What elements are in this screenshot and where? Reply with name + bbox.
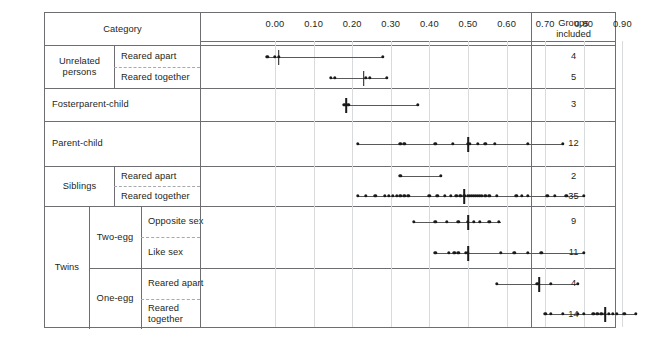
- range-line: [331, 78, 387, 79]
- row-label-parent-child: Parent-child: [45, 121, 207, 166]
- data-point: [520, 194, 523, 197]
- rule-siblings-split: [114, 186, 200, 187]
- gridline-0.40: [429, 41, 430, 327]
- data-point: [364, 194, 367, 197]
- data-point: [443, 194, 446, 197]
- groups-count: 5: [532, 67, 615, 88]
- groups-header-line1: Groups: [558, 18, 589, 29]
- data-point: [526, 251, 529, 254]
- row-label-siblings-reared-apart: Reared apart: [114, 166, 207, 186]
- data-point: [433, 220, 436, 223]
- data-point: [416, 103, 419, 106]
- data-point: [439, 174, 442, 177]
- data-point: [374, 194, 377, 197]
- range-line: [267, 57, 383, 58]
- data-point: [634, 312, 637, 315]
- data-point: [462, 194, 465, 197]
- range-line: [400, 176, 441, 177]
- data-point: [457, 220, 460, 223]
- data-point: [472, 220, 475, 223]
- data-point: [488, 220, 491, 223]
- gridline-0.30: [391, 41, 392, 327]
- tick-label-0.50: 0.50: [459, 19, 478, 29]
- groups-count: 4: [532, 46, 615, 67]
- groups-header-line2: included: [556, 29, 591, 40]
- groups-count: 11: [532, 237, 615, 268]
- gridline-0.50: [468, 41, 469, 327]
- data-point: [399, 174, 402, 177]
- row-label-twins-like-sex: Like sex: [141, 237, 207, 268]
- unrelated-persons-line1: Unrelated: [59, 56, 100, 67]
- data-point: [412, 220, 415, 223]
- tick-label-0.10: 0.10: [304, 19, 323, 29]
- groups-count: 2: [532, 166, 615, 186]
- row-label-twins-reared-apart: Reared apart: [141, 268, 207, 299]
- data-point: [433, 251, 436, 254]
- tick-label-0.60: 0.60: [497, 19, 516, 29]
- groups-count: 9: [532, 206, 615, 237]
- row-label-twins-reared-together: Reared together: [141, 299, 207, 329]
- groups-count: 4: [532, 268, 615, 299]
- data-point: [476, 142, 479, 145]
- row-label-siblings-reared-together: Reared together: [114, 186, 207, 206]
- data-point: [403, 142, 406, 145]
- range-line: [344, 105, 417, 106]
- data-point: [333, 76, 336, 79]
- data-point: [381, 55, 384, 58]
- data-point: [495, 282, 498, 285]
- groups-count: 12: [532, 121, 615, 166]
- data-point: [484, 142, 487, 145]
- groups-header: Groups included: [532, 13, 615, 45]
- data-point: [266, 55, 269, 58]
- row-label-unrelated-reared-apart: Reared apart: [114, 46, 207, 67]
- data-point: [435, 194, 438, 197]
- data-point: [623, 312, 626, 315]
- row-label-twins: Twins: [45, 206, 89, 329]
- data-point: [356, 194, 359, 197]
- gridline-0.20: [352, 41, 353, 327]
- groups-included-column: Groups included 45312235911414: [532, 13, 615, 327]
- data-point: [406, 194, 409, 197]
- data-point: [466, 220, 469, 223]
- data-point: [356, 142, 359, 145]
- tick-label-0.00: 0.00: [266, 19, 285, 29]
- unrelated-persons-line2: persons: [63, 67, 97, 78]
- data-point: [513, 251, 516, 254]
- data-point: [526, 194, 529, 197]
- data-point: [385, 76, 388, 79]
- row-label-siblings: Siblings: [45, 166, 114, 206]
- data-point: [468, 142, 471, 145]
- groups-count: 35: [532, 186, 615, 206]
- row-label-one-egg: One-egg: [89, 268, 141, 329]
- data-point: [433, 142, 436, 145]
- data-point: [449, 194, 452, 197]
- tick-label-0.30: 0.30: [381, 19, 400, 29]
- row-label-unrelated-reared-together: Reared together: [114, 67, 207, 88]
- data-point: [478, 220, 481, 223]
- data-point: [447, 251, 450, 254]
- data-point: [493, 142, 496, 145]
- row-label-unrelated-persons: Unrelated persons: [45, 46, 114, 88]
- data-point: [466, 251, 469, 254]
- figure-frame: Category Unrelated persons Reared apart …: [44, 12, 616, 328]
- data-point: [277, 55, 280, 58]
- data-point: [526, 142, 529, 145]
- data-point: [347, 103, 350, 106]
- gridline-0.90: [622, 41, 623, 327]
- rule-unrelated-split: [114, 67, 200, 68]
- rule-twoegg-split: [141, 237, 200, 238]
- data-point: [497, 220, 500, 223]
- rule-oneegg-split: [141, 299, 200, 300]
- tick-label-0.90: 0.90: [613, 19, 632, 29]
- category-table: Category Unrelated persons Reared apart …: [45, 13, 200, 327]
- correlation-chart-figure: Category Unrelated persons Reared apart …: [0, 0, 659, 340]
- data-point: [428, 194, 431, 197]
- data-point: [457, 251, 460, 254]
- groups-count: 14: [532, 299, 615, 329]
- row-label-twins-opposite-sex: Opposite sex: [141, 206, 207, 237]
- gridline-0.00: [275, 41, 276, 327]
- category-header: Category: [45, 13, 200, 45]
- data-point: [445, 220, 448, 223]
- data-point: [515, 194, 518, 197]
- gridline-0.10: [314, 41, 315, 327]
